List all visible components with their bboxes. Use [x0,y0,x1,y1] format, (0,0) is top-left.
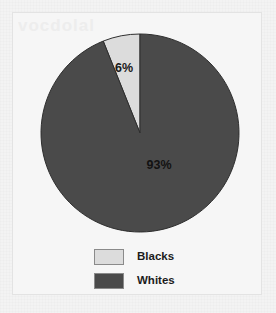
legend-swatch-blacks [94,249,124,265]
pie-chart-screenshot: vocdolal 6%93% Blacks Whites [0,0,276,313]
chart-legend: Blacks Whites [94,246,200,294]
legend-swatch-whites [94,273,124,289]
legend-label-blacks: Blacks [137,251,174,263]
legend-item-whites[interactable]: Whites [94,270,200,292]
legend-item-blacks[interactable]: Blacks [94,246,200,268]
legend-label-whites: Whites [137,275,175,287]
